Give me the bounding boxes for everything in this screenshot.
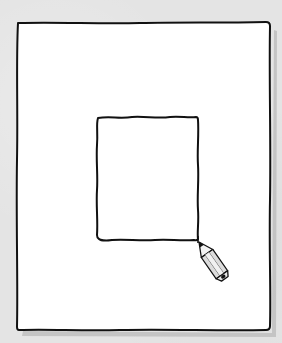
- outer-page-frame: [17, 22, 271, 330]
- illustration-canvas: [0, 0, 282, 343]
